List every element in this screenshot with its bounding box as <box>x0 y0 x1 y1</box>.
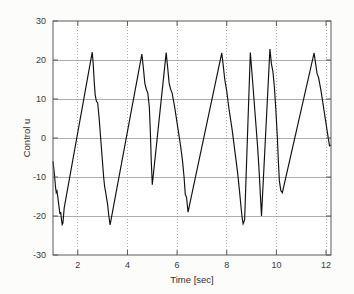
y-tick-label-30: 30 <box>36 16 46 26</box>
control-signal-chart: -30-20-100102030 24681012 Time [sec] Con… <box>0 0 354 294</box>
x-tick-label-2: 2 <box>75 260 80 270</box>
x-tick-label-12: 12 <box>321 260 331 270</box>
x-axis-title: Time [sec] <box>170 274 213 285</box>
x-tick-label-10: 10 <box>271 260 281 270</box>
y-tick-label-20: 20 <box>36 55 46 65</box>
y-tick-label--10: -10 <box>33 172 46 182</box>
y-tick-label-0: 0 <box>41 133 46 143</box>
y-axis-title: Control u <box>21 119 32 158</box>
x-tick-label-6: 6 <box>175 260 180 270</box>
y-tick-label-10: 10 <box>36 94 46 104</box>
figure-canvas: -30-20-100102030 24681012 Time [sec] Con… <box>0 0 354 294</box>
y-tick-label--30: -30 <box>33 250 46 260</box>
x-tick-label-8: 8 <box>224 260 229 270</box>
x-tick-label-4: 4 <box>125 260 130 270</box>
y-tick-label--20: -20 <box>33 211 46 221</box>
